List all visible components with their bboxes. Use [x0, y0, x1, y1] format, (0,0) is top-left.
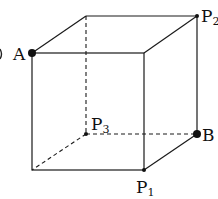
label-B: B	[202, 125, 215, 145]
label-A: A	[12, 44, 26, 64]
point-A	[28, 49, 36, 57]
label-P2: P2	[201, 6, 218, 28]
edge-bottom-right-depth	[144, 134, 197, 170]
hidden-edge-bottom-left-depth	[32, 134, 86, 170]
point-P1	[142, 168, 146, 172]
cube-diagram: A B P1 P2 P3	[0, 0, 218, 199]
point-P2	[195, 14, 199, 18]
point-B	[193, 130, 201, 138]
front-face	[32, 53, 144, 170]
edge-top-right-depth	[144, 16, 197, 53]
label-P3: P3	[91, 114, 109, 136]
cropped-glyph-fragment	[0, 49, 2, 59]
label-P1: P1	[136, 177, 154, 199]
edge-top-left-depth	[32, 16, 86, 53]
point-P3	[84, 132, 88, 136]
